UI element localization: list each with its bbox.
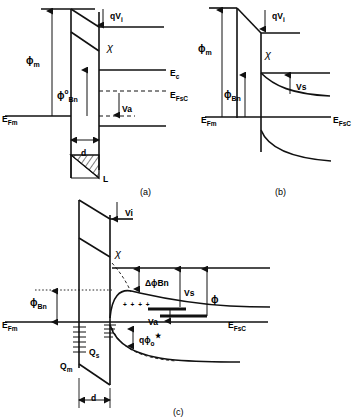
panel-c-label-phi-bn: ϕBn xyxy=(30,292,47,310)
panel-a-label-phi-m: ϕm xyxy=(26,50,40,68)
panel-b-valence-band-bending xyxy=(261,130,331,161)
panel-a-chi-slope xyxy=(71,32,99,51)
panel-c-valence-band-bending xyxy=(110,325,240,362)
panel-b-caption: (b) xyxy=(275,181,286,199)
panel-a-label-ec: Ec xyxy=(170,62,179,80)
panel-a-caption: (a) xyxy=(140,181,151,199)
panel-a-vacuum-slope xyxy=(71,9,99,27)
panel-a-label-efm: EFm xyxy=(2,108,17,126)
panel-c-caption: (c) xyxy=(173,401,184,418)
panel-a-label-va: Va xyxy=(122,98,132,116)
band-diagram-figure: ϕm ϕoBn χ qVi Ec EFsC EFm Va d L (a) ϕm … xyxy=(0,0,364,418)
panel-b-label-efm: EFm xyxy=(201,109,216,127)
panel-c-label-d: d xyxy=(91,387,96,405)
panel-c-label-efm: EFm xyxy=(2,314,17,332)
panel-b-label-vs: Vs xyxy=(296,76,306,94)
panel-a-label-qvi: qVi xyxy=(110,5,123,23)
panel-b-label-phi-m: ϕm xyxy=(198,38,212,56)
panel-c-label-qm: Qm xyxy=(60,355,72,373)
panel-c-label-chi: χ xyxy=(115,243,121,261)
panel-c-label-efsc: EFsC xyxy=(228,314,246,332)
panel-b-label-chi: χ xyxy=(265,44,271,62)
panel-b-label-efsc: EFsC xyxy=(333,109,351,127)
panel-a-label-chi: χ xyxy=(107,37,113,55)
panel-c-label-va: Va xyxy=(148,311,158,329)
panel-c-label-plus-charges: + + + + xyxy=(123,293,151,311)
panel-c-label-delta-phi-bn: ΔϕBn xyxy=(145,272,169,290)
panel-c-label-q-phi-o: qϕo★ xyxy=(139,329,161,347)
panel-a-label-L: L xyxy=(103,168,108,186)
panel-b-label-qvi: qVi xyxy=(272,5,285,23)
panel-b-vacuum-slope xyxy=(237,8,261,33)
panel-c-label-phi: ϕ xyxy=(211,289,219,307)
panel-a-label-efsc: EFsC xyxy=(170,84,188,102)
panel-b-label-phi-bn: ϕBn xyxy=(224,84,241,102)
panel-c-interfacial-bottom-slope xyxy=(79,364,110,385)
panel-c-label-qs: Qs xyxy=(89,341,99,359)
panel-c-label-vs: Vs xyxy=(184,282,194,300)
panel-c-chi-slope xyxy=(79,238,110,257)
panel-c-vacuum-slope xyxy=(79,200,110,219)
panel-a-label-phi-bn: ϕoBn xyxy=(57,85,78,103)
band-diagram-canvas xyxy=(0,0,364,418)
panel-c-label-vi: Vi xyxy=(125,202,133,220)
panel-a-label-d: d xyxy=(81,142,86,160)
